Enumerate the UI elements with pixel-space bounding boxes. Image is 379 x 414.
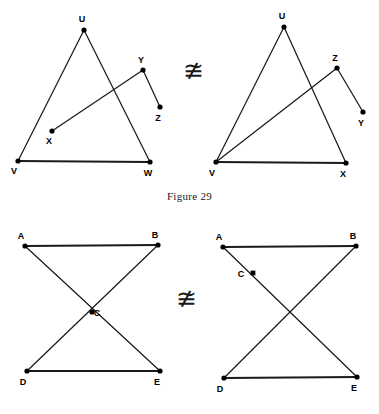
vertex-label-V: V	[209, 168, 215, 178]
vertex-label-Y: Y	[358, 118, 364, 128]
vertex-label-B: B	[350, 231, 357, 241]
segment-BD	[224, 246, 356, 378]
figure-top-left: UVWXYZ	[0, 0, 190, 188]
vertex-label-Z: Z	[155, 113, 161, 123]
vertex-point-D[interactable]	[221, 375, 226, 380]
vertex-point-U[interactable]	[281, 24, 286, 29]
segment-UX	[284, 27, 346, 163]
vertex-point-C[interactable]	[251, 271, 256, 276]
vertex-point-Y[interactable]	[360, 109, 365, 114]
vertex-label-C: C	[238, 269, 245, 279]
vertex-point-B[interactable]	[353, 243, 358, 248]
segment-VX	[216, 162, 346, 163]
vertex-label-X: X	[46, 136, 52, 146]
segment-VZ	[216, 68, 337, 162]
segment-YZ	[143, 70, 160, 107]
figure-top-right-canvas: UVXZY	[190, 0, 379, 188]
vertex-point-Z[interactable]	[157, 104, 162, 109]
segment-AB	[25, 245, 158, 246]
vertex-point-E[interactable]	[354, 374, 359, 379]
segment-AB	[223, 246, 356, 247]
vertex-label-U: U	[279, 11, 286, 21]
figure-top-right: UVXZY	[190, 0, 379, 188]
vertex-label-U: U	[79, 14, 86, 24]
vertex-point-V[interactable]	[213, 159, 218, 164]
vertex-point-B[interactable]	[155, 242, 160, 247]
vertex-point-A[interactable]	[22, 243, 27, 248]
vertex-label-E: E	[351, 383, 357, 393]
vertex-label-D: D	[217, 384, 224, 394]
not-congruent-icon-top: ≇	[183, 58, 204, 83]
vertex-label-D: D	[20, 377, 27, 387]
vertex-label-X: X	[340, 169, 346, 179]
vertex-point-Y[interactable]	[140, 67, 145, 72]
segment-VW	[18, 161, 150, 162]
vertex-label-C: C	[94, 308, 101, 318]
vertex-point-X[interactable]	[343, 160, 348, 165]
segment-ZY	[337, 68, 363, 112]
vertex-label-Y: Y	[138, 55, 144, 65]
figure-bottom-right: ABCDE	[190, 218, 379, 414]
vertex-label-Z: Z	[332, 53, 338, 63]
bottom-figure-row: ABCDE ABCDE	[0, 218, 379, 414]
vertex-point-X[interactable]	[49, 128, 54, 133]
vertex-point-W[interactable]	[147, 159, 152, 164]
vertex-point-U[interactable]	[81, 27, 86, 32]
segment-UV	[216, 27, 284, 162]
vertex-point-A[interactable]	[220, 244, 225, 249]
vertex-label-V: V	[11, 166, 17, 176]
vertex-point-D[interactable]	[24, 368, 29, 373]
segment-UW	[84, 30, 150, 162]
figure-top-left-canvas: UVWXYZ	[0, 0, 190, 188]
vertex-point-Z[interactable]	[334, 65, 339, 70]
vertex-point-V[interactable]	[15, 158, 20, 163]
figure-bottom-right-canvas: ABCDE	[190, 218, 379, 414]
segment-BD	[27, 245, 158, 371]
figure-page: UVWXYZ UVXZY ≇ Figure 29 ABCDE ABCDE ≇	[0, 0, 379, 414]
segment-DE	[224, 377, 357, 378]
figure-bottom-left-canvas: ABCDE	[0, 218, 190, 414]
not-congruent-icon-bottom: ≇	[176, 286, 197, 311]
figure-caption: Figure 29	[0, 190, 379, 202]
vertex-point-E[interactable]	[157, 368, 162, 373]
vertex-label-E: E	[154, 377, 160, 387]
vertex-label-A: A	[18, 231, 25, 241]
vertex-label-A: A	[216, 232, 223, 242]
vertex-label-B: B	[152, 230, 159, 240]
top-figure-row: UVWXYZ UVXZY	[0, 0, 379, 188]
vertex-label-W: W	[144, 168, 153, 178]
figure-bottom-left: ABCDE	[0, 218, 190, 414]
